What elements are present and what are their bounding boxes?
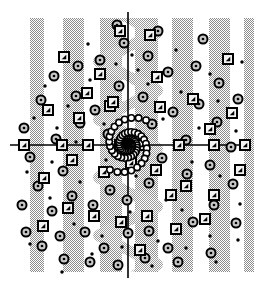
dot-marker-6 bbox=[146, 82, 150, 86]
dot-marker-22 bbox=[218, 174, 222, 178]
circle-marker-core-11 bbox=[151, 123, 154, 126]
dot-marker-4 bbox=[114, 62, 118, 66]
circle-marker-core-54 bbox=[237, 98, 240, 101]
dot-marker-37 bbox=[214, 260, 218, 264]
circle-marker-core-9 bbox=[118, 85, 121, 88]
dot-marker-10 bbox=[216, 99, 220, 103]
dot-marker-14 bbox=[74, 140, 78, 144]
circle-marker-core-41 bbox=[117, 264, 120, 267]
circle-marker-core-50 bbox=[77, 65, 80, 68]
dot-marker-16 bbox=[50, 160, 54, 164]
dot-marker-40 bbox=[136, 68, 140, 72]
circle-marker-core-47 bbox=[147, 55, 150, 58]
dot-marker-41 bbox=[174, 48, 178, 52]
circle-marker-core-4 bbox=[29, 156, 32, 159]
circle-marker-core-34 bbox=[192, 221, 195, 224]
circle-marker-core-6 bbox=[62, 170, 65, 173]
circle-marker-core-39 bbox=[177, 261, 180, 264]
circle-marker-core-18 bbox=[186, 173, 189, 176]
circle-marker-core-28 bbox=[59, 235, 62, 238]
dot-marker-19 bbox=[134, 174, 138, 178]
circle-marker-core-25 bbox=[51, 210, 54, 213]
circle-marker-core-15 bbox=[216, 121, 219, 124]
circle-marker-core-27 bbox=[21, 204, 24, 207]
circle-marker-core-52 bbox=[195, 65, 198, 68]
circle-marker-core-13 bbox=[185, 139, 188, 142]
circle-marker-core-56 bbox=[157, 30, 160, 33]
circle-marker-core-35 bbox=[213, 204, 216, 207]
scatter-plot bbox=[0, 0, 254, 288]
dot-marker-31 bbox=[28, 242, 32, 246]
circle-marker-core-10 bbox=[142, 96, 145, 99]
circle-marker-core-23 bbox=[92, 204, 95, 207]
spiral-marker-a1-46 bbox=[107, 167, 113, 173]
circle-marker-core-48 bbox=[123, 42, 126, 45]
figure-container bbox=[0, 0, 254, 288]
dot-marker-17 bbox=[78, 180, 82, 184]
spiral-marker-a1-43 bbox=[128, 167, 134, 173]
circle-marker-core-24 bbox=[71, 195, 74, 198]
circle-marker-core-46 bbox=[167, 71, 170, 74]
dot-marker-30 bbox=[48, 196, 52, 200]
dot-marker-39 bbox=[86, 42, 90, 46]
circle-marker-core-17 bbox=[209, 164, 212, 167]
spiral-marker-a0-45 bbox=[135, 115, 141, 121]
circle-marker-core-55 bbox=[202, 38, 205, 41]
circle-marker-core-51 bbox=[53, 75, 56, 78]
dot-marker-33 bbox=[90, 252, 94, 256]
circle-marker-core-32 bbox=[148, 230, 151, 233]
circle-marker-core-45 bbox=[25, 231, 28, 234]
dot-marker-34 bbox=[120, 245, 124, 249]
circle-marker-core-22 bbox=[109, 189, 112, 192]
dot-marker-5 bbox=[130, 53, 134, 57]
circle-marker-core-40 bbox=[144, 257, 147, 260]
circle-marker-core-53 bbox=[218, 82, 221, 85]
dot-marker-2 bbox=[88, 78, 92, 82]
dot-marker-18 bbox=[104, 158, 108, 162]
dot-marker-23 bbox=[238, 202, 242, 206]
dot-marker-3 bbox=[102, 122, 106, 126]
circle-marker-core-37 bbox=[235, 222, 238, 225]
circle-marker-core-0 bbox=[40, 99, 43, 102]
dot-marker-8 bbox=[179, 90, 183, 94]
circle-marker-core-21 bbox=[126, 199, 129, 202]
circle-marker-core-33 bbox=[167, 247, 170, 250]
dot-marker-27 bbox=[128, 210, 132, 214]
dot-marker-9 bbox=[197, 126, 201, 130]
dot-marker-35 bbox=[150, 264, 154, 268]
dot-marker-15 bbox=[25, 170, 29, 174]
dot-marker-7 bbox=[161, 117, 165, 121]
circle-marker-core-12 bbox=[172, 111, 175, 114]
circle-marker-core-43 bbox=[63, 258, 66, 261]
circle-marker-core-36 bbox=[232, 183, 235, 186]
dot-marker-24 bbox=[208, 234, 212, 238]
circle-marker-core-44 bbox=[41, 245, 44, 248]
dot-marker-21 bbox=[190, 160, 194, 164]
circle-marker-core-30 bbox=[103, 247, 106, 250]
dot-marker-11 bbox=[234, 129, 238, 133]
circle-marker-core-20 bbox=[148, 182, 151, 185]
spiral-marker-a0-44 bbox=[128, 115, 134, 121]
circle-marker-core-16 bbox=[230, 146, 233, 149]
dot-marker-1 bbox=[66, 104, 70, 108]
circle-marker-core-49 bbox=[99, 59, 102, 62]
spiral-marker-a0-43 bbox=[121, 116, 127, 122]
dot-marker-0 bbox=[43, 84, 47, 88]
dot-marker-12 bbox=[32, 116, 36, 120]
spiral-center-dot bbox=[124, 141, 132, 149]
dot-marker-29 bbox=[72, 222, 76, 226]
dot-marker-13 bbox=[55, 126, 59, 130]
dot-marker-38 bbox=[236, 238, 240, 242]
dot-marker-42 bbox=[208, 72, 212, 76]
circle-marker-core-19 bbox=[161, 157, 164, 160]
circle-marker-core-26 bbox=[37, 185, 40, 188]
dot-marker-43 bbox=[240, 60, 244, 64]
dot-marker-26 bbox=[156, 239, 160, 243]
circle-marker-core-7 bbox=[94, 109, 97, 112]
circle-marker-core-42 bbox=[89, 261, 92, 264]
dot-marker-36 bbox=[184, 246, 188, 250]
circle-marker-core-38 bbox=[210, 252, 213, 255]
circle-marker-core-3 bbox=[23, 127, 26, 130]
dot-marker-28 bbox=[100, 234, 104, 238]
circle-marker-core-31 bbox=[127, 232, 130, 235]
